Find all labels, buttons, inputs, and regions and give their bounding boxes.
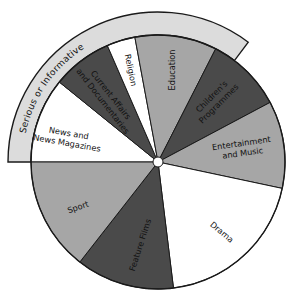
- pie-wheel: News andNews MagazinesCurrent Affairsand…: [0, 0, 289, 304]
- tv-programme-wheel-diagram: News andNews MagazinesCurrent Affairsand…: [0, 0, 289, 304]
- center-hub: [153, 157, 163, 167]
- slice-label: Education: [167, 50, 177, 91]
